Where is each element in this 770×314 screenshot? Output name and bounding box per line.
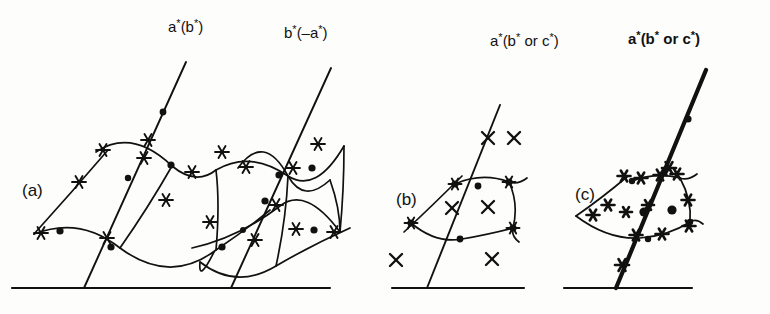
arc-a-rib-far-right	[276, 176, 288, 266]
figure-root: (a) a*(b*) b*(–a*)	[0, 0, 770, 314]
axis-label-b-star-minus-a-star: b*(–a*)	[284, 23, 328, 41]
axis-label-a-star-b-star: a*(b*)	[168, 17, 203, 35]
arc-b-top	[455, 177, 527, 184]
node-dot	[684, 115, 691, 122]
panel-label-a: (a)	[22, 181, 43, 200]
cross-marker	[486, 253, 498, 265]
panel-label-b: (b)	[396, 190, 417, 209]
panel-b: (b) a*(b* or c*)	[390, 31, 559, 288]
panel-label-c: (c)	[575, 185, 595, 204]
cross-marker	[508, 132, 520, 144]
filled-dot-marker	[639, 207, 648, 216]
arc-a-mid-right	[192, 200, 340, 248]
panel-b-corner-stars	[405, 177, 520, 234]
arc-a-mid-left	[34, 210, 270, 267]
panel-a-lattice-curves	[34, 143, 350, 277]
axis-label-a-star-b-or-c: a*(b* or c*)	[490, 31, 559, 49]
panel-a: (a) a*(b*) b*(–a*)	[12, 17, 350, 288]
arc-a-rib-right	[216, 170, 218, 250]
arc-a-rib-right2	[200, 252, 214, 271]
axis-label-a-star-b-or-c-bold: a*(b* or c*)	[628, 29, 700, 47]
panel-c: (c) a*(b* or c*)	[564, 29, 706, 288]
arc-a-low-right	[200, 228, 350, 277]
cross-marker	[390, 254, 402, 266]
filled-dot-marker	[667, 205, 676, 214]
arc-a-rib-left	[34, 150, 108, 234]
cross-marker	[446, 202, 458, 214]
arc-a-rib-outer	[340, 146, 344, 232]
cross-marker	[482, 201, 494, 213]
node-dot	[160, 109, 167, 116]
panel-b-lattice-curves	[404, 176, 527, 242]
reciprocal-lattice-figure: (a) a*(b*) b*(–a*)	[0, 0, 770, 314]
panel-a-edge-stars	[34, 134, 341, 239]
panel-c-filled-dots	[639, 205, 676, 216]
rod-a1	[84, 62, 186, 288]
